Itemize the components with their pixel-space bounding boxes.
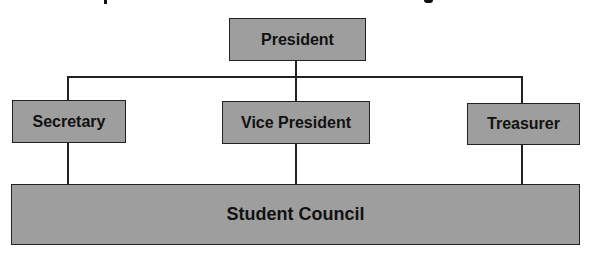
connector-secretary-council <box>67 142 69 185</box>
node-label: Student Council <box>227 204 365 225</box>
connector-to-treasurer <box>521 76 523 103</box>
node-label: Treasurer <box>487 115 560 133</box>
node-label: President <box>261 31 334 49</box>
node-treasurer: Treasurer <box>467 103 580 145</box>
node-label: Secretary <box>33 113 106 131</box>
node-president: President <box>229 18 366 61</box>
connector-to-vice-president <box>295 76 297 101</box>
node-label: Vice President <box>241 114 351 132</box>
connector-to-secretary <box>67 76 69 101</box>
node-student-council: Student Council <box>11 184 580 245</box>
connector-president-down <box>295 60 297 77</box>
node-vice-president: Vice President <box>222 101 370 144</box>
node-secretary: Secretary <box>12 100 126 143</box>
cropped-title-fragment <box>104 0 107 4</box>
connector-vp-council <box>295 143 297 185</box>
cropped-title-fragment <box>424 0 433 3</box>
connector-treasurer-council <box>521 144 523 185</box>
